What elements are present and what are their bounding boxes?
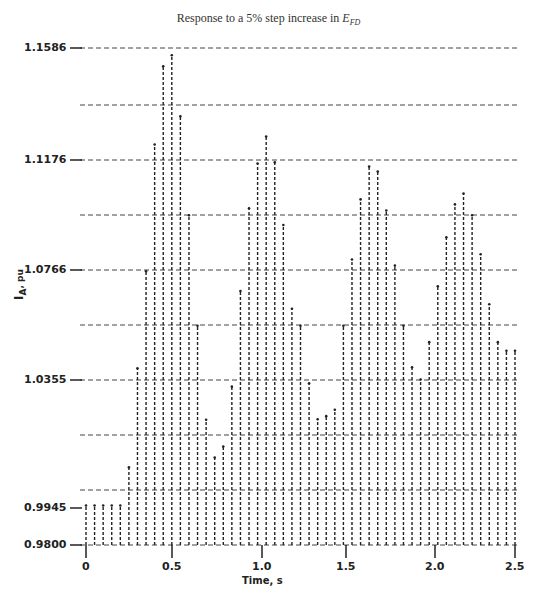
bar-top-marker — [179, 115, 182, 118]
bar-top-marker — [205, 418, 208, 421]
bar-top-marker — [145, 270, 148, 273]
bar-top-marker — [334, 408, 337, 411]
x-tick-label: 0 — [82, 560, 90, 573]
bar-top-marker — [119, 504, 122, 507]
bar-chart — [0, 0, 537, 595]
y-tick-label: 1.1586 — [24, 41, 66, 54]
bar-top-marker — [402, 324, 405, 327]
bar-top-marker — [411, 366, 414, 369]
bar-top-marker — [428, 341, 431, 344]
bar-top-marker — [299, 324, 302, 327]
bar-top-marker — [368, 165, 371, 168]
bar-top-marker — [497, 341, 500, 344]
x-axis-title: Time, s — [242, 575, 283, 586]
bar-top-marker — [265, 135, 268, 138]
bar-top-marker — [213, 456, 216, 459]
x-tick-label: 0.5 — [162, 560, 182, 573]
y-tick-label: 1.1176 — [24, 153, 66, 166]
bar-top-marker — [248, 207, 251, 210]
bar-top-marker — [488, 303, 491, 306]
bar-top-marker — [239, 290, 242, 293]
bar-top-marker — [188, 214, 191, 217]
bar-top-marker — [153, 143, 156, 146]
bar-top-marker — [256, 162, 259, 165]
bar-top-marker — [419, 378, 422, 381]
bar-top-marker — [514, 349, 517, 352]
y-tick-label: 0.9800 — [24, 538, 66, 551]
bar-top-marker — [196, 324, 199, 327]
x-tick-label: 1.0 — [252, 560, 272, 573]
bar-top-marker — [351, 258, 354, 261]
bar-top-marker — [505, 349, 508, 352]
x-tick-label: 2.5 — [505, 560, 525, 573]
bar-top-marker — [316, 418, 319, 421]
bar-top-marker — [162, 65, 165, 68]
bar-top-marker — [479, 253, 482, 256]
bar-top-marker — [445, 236, 448, 239]
bar-top-marker — [308, 382, 311, 385]
bar-top-marker — [273, 161, 276, 164]
bar-top-marker — [222, 445, 225, 448]
bar-top-marker — [282, 224, 285, 227]
x-tick-label: 2.0 — [425, 560, 445, 573]
bar-top-marker — [128, 466, 131, 469]
bar-top-marker — [454, 203, 457, 206]
bar-top-marker — [342, 324, 345, 327]
bar-top-marker — [102, 504, 105, 507]
bar-top-marker — [85, 504, 88, 507]
bar-top-marker — [462, 192, 465, 195]
bar-top-marker — [376, 170, 379, 173]
y-tick-label: 1.0766 — [24, 263, 66, 276]
bar-top-marker — [325, 415, 328, 418]
bar-top-marker — [93, 504, 96, 507]
bar-top-marker — [385, 209, 388, 212]
bar-top-marker — [471, 214, 474, 217]
bar-top-marker — [359, 198, 362, 201]
y-tick-label: 1.0355 — [24, 373, 66, 386]
bar-top-marker — [231, 385, 234, 388]
bar-top-marker — [136, 367, 139, 370]
bar-top-marker — [171, 54, 174, 57]
y-tick-label: 0.9945 — [24, 501, 66, 514]
bar-top-marker — [394, 264, 397, 267]
bar-top-marker — [436, 285, 439, 288]
bar-top-marker — [291, 307, 294, 310]
bar-top-marker — [110, 504, 113, 507]
x-tick-label: 1.5 — [336, 560, 356, 573]
